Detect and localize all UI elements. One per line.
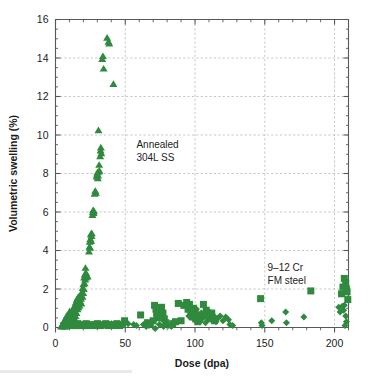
annotation-line-1: 9–12 Cr [268, 262, 304, 273]
x-tick-label: 100 [186, 337, 204, 349]
data-point-square [344, 288, 351, 295]
figure-container: 0246810121416050100150200 Dose (dpa)Volu… [0, 0, 370, 377]
y-axis-title: Volumetric swelling (%) [7, 115, 19, 232]
footer-rule [0, 370, 132, 373]
y-tick-label: 10 [37, 129, 49, 141]
y-tick-label: 0 [43, 321, 49, 333]
y-tick-label: 2 [43, 283, 49, 295]
y-tick-label: 12 [37, 90, 49, 102]
x-axis-title: Dose (dpa) [175, 357, 229, 369]
annotation-line-1: Annealed [136, 139, 178, 150]
data-point-square [344, 296, 351, 303]
data-point-square [257, 295, 264, 302]
scatter-plot: 0246810121416050100150200 Dose (dpa)Volu… [0, 0, 370, 377]
annotation-line-2: FM steel [268, 275, 306, 286]
x-tick-label: 200 [326, 337, 344, 349]
y-tick-label: 8 [43, 167, 49, 179]
y-tick-label: 16 [37, 13, 49, 25]
y-tick-label: 4 [43, 244, 49, 256]
annotation-line-2: 304L SS [136, 152, 174, 163]
x-tick-label: 150 [256, 337, 274, 349]
x-tick-label: 0 [53, 337, 59, 349]
y-tick-label: 14 [37, 52, 49, 64]
y-tick-label: 6 [43, 206, 49, 218]
data-point-square [137, 311, 144, 318]
x-tick-label: 50 [119, 337, 131, 349]
data-point-square [178, 317, 185, 324]
data-point-square [307, 287, 314, 294]
